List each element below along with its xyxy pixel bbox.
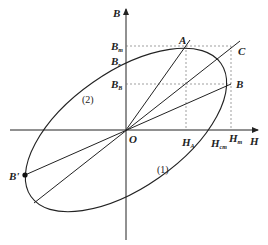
line-oc bbox=[34, 41, 240, 203]
y-axis-label: B bbox=[112, 7, 120, 19]
point-b-prime-label: B' bbox=[8, 170, 19, 182]
tick-ha: HA bbox=[181, 136, 195, 149]
tick-hm: Hm bbox=[228, 132, 243, 145]
point-a-label: A bbox=[178, 34, 186, 46]
tick-bb: BB bbox=[110, 78, 122, 91]
point-b-label: B bbox=[235, 78, 243, 90]
dashed-guides bbox=[126, 46, 231, 130]
region-1-label: (1) bbox=[157, 164, 169, 176]
hysteresis-diagram: B H O A C B B' Bm Br BB HA Hcm Hm (2) (1… bbox=[0, 0, 268, 245]
b-prime-point bbox=[22, 172, 27, 177]
tick-hcm: Hcm bbox=[210, 137, 227, 150]
tick-bm: Bm bbox=[110, 40, 123, 53]
region-2-label: (2) bbox=[82, 94, 94, 106]
tick-br: Br bbox=[110, 55, 121, 68]
x-axis-label: H bbox=[249, 135, 259, 147]
origin-label: O bbox=[129, 133, 137, 145]
point-c-label: C bbox=[238, 45, 246, 57]
